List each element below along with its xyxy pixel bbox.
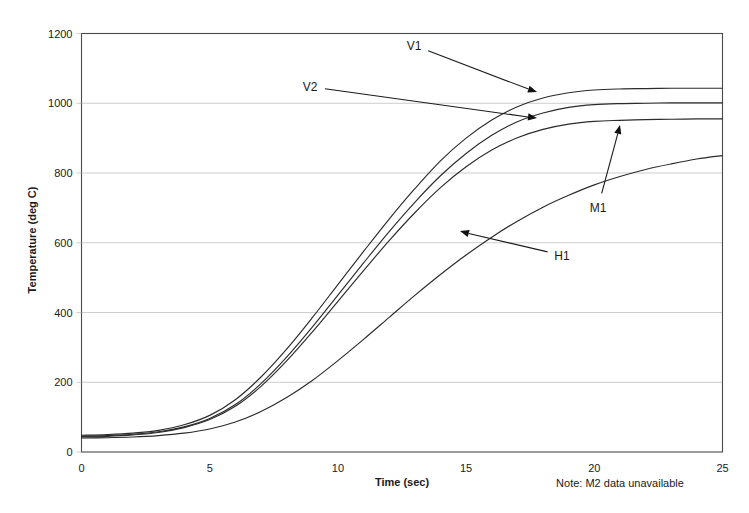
y-tick-label-400: 400 [54, 307, 72, 319]
y-axis-title: Temperature (deg C) [26, 186, 38, 293]
x-tick-label-0: 0 [78, 462, 84, 474]
y-tick-label-200: 200 [54, 376, 72, 388]
x-tick-label-15: 15 [460, 462, 472, 474]
chart-footnote: Note: M2 data unavailable [556, 477, 684, 489]
annotation-label-h1: H1 [554, 249, 570, 263]
y-tick-label-1200: 1200 [48, 28, 72, 40]
y-tick-label-1000: 1000 [48, 97, 72, 109]
x-tick-label-20: 20 [588, 462, 600, 474]
x-tick-label-5: 5 [207, 462, 213, 474]
annotation-label-v1: V1 [407, 39, 422, 53]
x-tick-label-25: 25 [716, 462, 728, 474]
y-tick-label-0: 0 [66, 446, 72, 458]
x-tick-label-10: 10 [332, 462, 344, 474]
annotation-label-m1: M1 [590, 201, 607, 215]
temperature-vs-time-line-chart: 020040060080010001200 0510152025 V1V2M1H… [0, 0, 749, 513]
x-axis-title: Time (sec) [375, 476, 430, 488]
annotation-label-v2: V2 [303, 80, 318, 94]
y-tick-label-800: 800 [54, 167, 72, 179]
y-tick-label-600: 600 [54, 237, 72, 249]
chart-container: 020040060080010001200 0510152025 V1V2M1H… [0, 0, 749, 513]
